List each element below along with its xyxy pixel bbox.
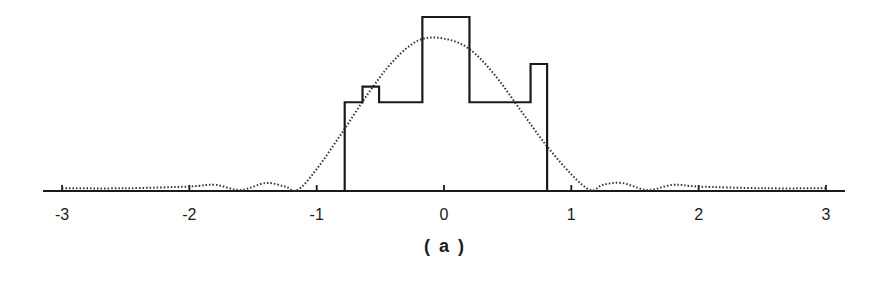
x-tick-label: 2 xyxy=(694,206,703,224)
step-profile-line xyxy=(345,17,547,191)
x-tick-label: 0 xyxy=(440,206,449,224)
x-tick-label: 1 xyxy=(567,206,576,224)
x-tick-label: 3 xyxy=(821,206,830,224)
x-tick-label: -2 xyxy=(182,206,196,224)
x-axis xyxy=(43,185,845,191)
x-tick-label: -3 xyxy=(55,206,69,224)
x-tick-label: -1 xyxy=(310,206,324,224)
dotted-fit-curve xyxy=(62,38,826,191)
figure-caption: ( a ) xyxy=(424,236,466,257)
